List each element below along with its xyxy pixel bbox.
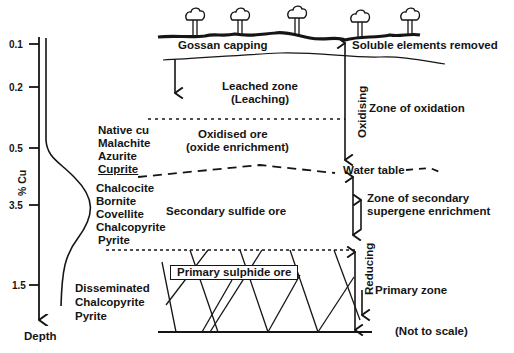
oxide-minerals-list: Native cu Malachite Azurite Cuprite	[98, 124, 150, 176]
vein-stockwork	[162, 250, 360, 332]
tick-0.5: 0.5	[9, 142, 23, 155]
depth-label: Depth	[24, 330, 57, 343]
water-table-line-right	[406, 168, 440, 172]
oxidising-label: Oxidising	[356, 86, 369, 138]
secondary-sulfide-label: Secondary sulfide ore	[166, 205, 286, 218]
secondary-enrichment-label: Zone of secondary supergene enrichment	[367, 192, 490, 218]
gossan-capping-label: Gossan capping	[178, 39, 267, 52]
tree-icon	[231, 8, 250, 34]
tick-0.2: 0.2	[9, 81, 23, 94]
soluble-elements-label: Soluble elements removed	[352, 39, 498, 52]
oxidised-ore-label: Oxidised ore (oxide enrichment)	[186, 128, 289, 154]
primary-zone-label: Primary zone	[375, 284, 447, 297]
water-table-label: Water table	[343, 164, 405, 177]
primary-minerals-list: Disseminated Chalcopyrite Pyrite	[75, 281, 150, 323]
secondary-minerals-list: Chalcocite Bornite Covellite Chalcopyrit…	[96, 182, 166, 247]
tick-0.1: 0.1	[9, 38, 23, 51]
cu-axis-label: % Cu	[16, 170, 29, 196]
tree-icon	[351, 10, 370, 38]
not-to-scale-label: (Not to scale)	[395, 325, 468, 338]
tick-1.5: 1.5	[12, 279, 26, 292]
water-table-line	[138, 165, 335, 177]
leached-zone-label: Leached zone (Leaching)	[210, 80, 310, 106]
primary-sulphide-label: Primary sulphide ore	[170, 265, 298, 280]
copper-grade-curve	[46, 38, 90, 306]
zone-of-oxidation-label: Zone of oxidation	[369, 102, 465, 115]
tree-icon	[288, 6, 307, 34]
depth-axis	[29, 37, 39, 320]
gossan-base-line	[163, 53, 445, 64]
tree-icon	[186, 8, 205, 36]
tree-icon	[401, 8, 420, 36]
tree-icons	[186, 6, 420, 38]
tick-3.5: 3.5	[9, 199, 23, 212]
